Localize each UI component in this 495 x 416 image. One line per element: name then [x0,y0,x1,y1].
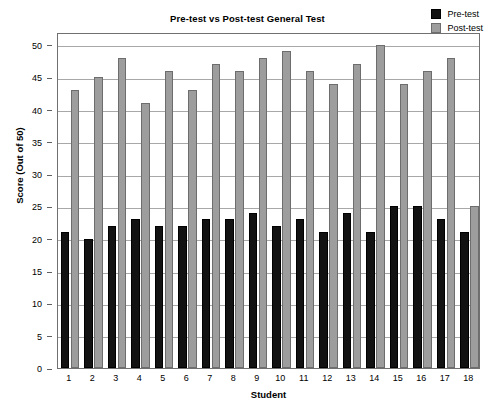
y-tick-label: 5 [37,332,42,342]
bar-post-test-student-13 [353,64,362,368]
x-tick-label: 4 [137,373,142,383]
x-tick-label: 12 [322,373,332,383]
bar-post-test-student-15 [400,84,409,368]
chart-legend: Pre-testPost-test [428,7,486,35]
x-tick-label: 3 [113,373,118,383]
bar-pre-test-student-13 [343,213,352,368]
bars-layer [58,34,479,368]
bar-pre-test-student-7 [202,219,211,368]
bar-pre-test-student-14 [366,232,375,368]
bar-pre-test-student-6 [178,226,187,368]
bar-pre-test-student-10 [272,226,281,368]
y-tick-label: 25 [32,202,42,212]
chart-title: Pre-test vs Post-test General Test [0,13,495,24]
legend-label: Pre-test [447,9,479,19]
bar-pre-test-student-17 [437,219,446,368]
legend-item-post-test: Post-test [431,23,483,33]
y-tick-mark [47,142,52,143]
y-tick-mark [47,336,52,337]
bar-post-test-student-16 [423,71,432,368]
bar-post-test-student-8 [235,71,244,368]
y-tick-label: 0 [37,364,42,374]
bar-post-test-student-2 [94,77,103,368]
bar-post-test-student-17 [447,58,456,368]
bar-post-test-student-7 [212,64,221,368]
y-tick-label: 45 [32,73,42,83]
bar-pre-test-student-4 [131,219,140,368]
bar-pre-test-student-15 [390,206,399,368]
y-tick-label: 15 [32,267,42,277]
x-tick-label: 17 [440,373,450,383]
y-tick-mark [47,272,52,273]
y-axis: 05101520253035404550 [0,33,52,369]
legend-item-pre-test: Pre-test [431,9,483,19]
y-tick-label: 30 [32,170,42,180]
bar-post-test-student-3 [118,58,127,368]
bar-pre-test-student-11 [296,219,305,368]
bar-pre-test-student-1 [61,232,70,368]
bar-post-test-student-9 [259,58,268,368]
y-tick-label: 35 [32,138,42,148]
y-tick-label: 50 [32,41,42,51]
x-tick-label: 2 [90,373,95,383]
x-tick-label: 13 [346,373,356,383]
y-tick-mark [47,369,52,370]
bar-post-test-student-4 [141,103,150,368]
bar-pre-test-student-8 [225,219,234,368]
x-tick-label: 15 [393,373,403,383]
bar-post-test-student-18 [470,206,479,368]
x-tick-label: 1 [66,373,71,383]
bar-pre-test-student-16 [413,206,422,368]
bar-pre-test-student-18 [460,232,469,368]
x-axis-title: Student [57,389,480,400]
bar-pre-test-student-2 [84,239,93,368]
y-tick-mark [47,207,52,208]
x-tick-label: 16 [416,373,426,383]
bar-post-test-student-12 [329,84,338,368]
bar-post-test-student-1 [71,90,80,368]
y-tick-label: 20 [32,235,42,245]
x-tick-label: 14 [369,373,379,383]
x-tick-label: 18 [463,373,473,383]
y-tick-label: 10 [32,299,42,309]
x-tick-label: 5 [160,373,165,383]
x-tick-label: 11 [299,373,308,383]
chart-container: Pre-test vs Post-test General Test Score… [0,0,495,416]
legend-swatch-icon [431,23,441,33]
bar-pre-test-student-9 [249,213,258,368]
bar-post-test-student-6 [188,90,197,368]
bar-post-test-student-5 [165,71,174,368]
x-tick-label: 10 [275,373,285,383]
y-tick-mark [47,175,52,176]
y-tick-mark [47,78,52,79]
x-tick-label: 7 [207,373,212,383]
x-tick-label: 9 [254,373,259,383]
bar-pre-test-student-12 [319,232,328,368]
y-tick-mark [47,304,52,305]
legend-swatch-icon [431,9,441,19]
bar-post-test-student-10 [282,51,291,368]
x-axis: 123456789101112131415161718 [57,370,480,388]
bar-pre-test-student-5 [155,226,164,368]
bar-pre-test-student-3 [108,226,117,368]
x-tick-label: 6 [184,373,189,383]
y-tick-mark [47,239,52,240]
plot-area [57,33,480,369]
bar-post-test-student-11 [306,71,315,368]
x-tick-label: 8 [231,373,236,383]
y-tick-label: 40 [32,106,42,116]
bar-post-test-student-14 [376,45,385,368]
y-tick-mark [47,45,52,46]
legend-label: Post-test [447,23,483,33]
y-tick-mark [47,110,52,111]
